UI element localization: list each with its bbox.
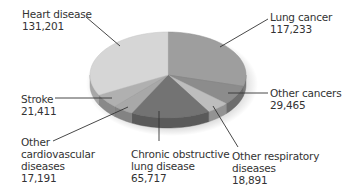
label-stroke: Stroke 21,411 xyxy=(21,93,57,117)
label-text: Heart disease xyxy=(22,8,92,20)
label-text: Other respiratory xyxy=(232,150,319,162)
leader-lung xyxy=(220,19,268,47)
label-text: Lung cancer xyxy=(270,11,332,23)
label-value: 17,191 xyxy=(21,172,95,184)
label-text: diseases xyxy=(232,162,319,174)
label-other-cancers: Other cancers 29,465 xyxy=(270,87,341,111)
label-copd: Chronic obstructive lung disease 65,717 xyxy=(131,148,230,184)
label-text: Stroke xyxy=(21,93,57,105)
label-value: 117,233 xyxy=(270,23,332,35)
label-text: Chronic obstructive xyxy=(131,148,230,160)
label-value: 18,891 xyxy=(232,174,319,186)
label-value: 131,201 xyxy=(22,20,92,32)
pie-slices xyxy=(90,32,246,118)
label-value: 29,465 xyxy=(270,99,341,111)
label-text: Other xyxy=(21,136,95,148)
label-text: cardiovascular xyxy=(21,148,95,160)
label-other-respiratory: Other respiratory diseases 18,891 xyxy=(232,150,319,186)
label-lung-cancer: Lung cancer 117,233 xyxy=(270,11,332,35)
label-text: diseases xyxy=(21,160,95,172)
label-other-cardiovascular: Other cardiovascular diseases 17,191 xyxy=(21,136,95,184)
label-heart-disease: Heart disease 131,201 xyxy=(22,8,92,32)
label-value: 65,717 xyxy=(131,172,230,184)
label-text: Other cancers xyxy=(270,87,341,99)
label-value: 21,411 xyxy=(21,105,57,117)
label-text: lung disease xyxy=(131,160,230,172)
